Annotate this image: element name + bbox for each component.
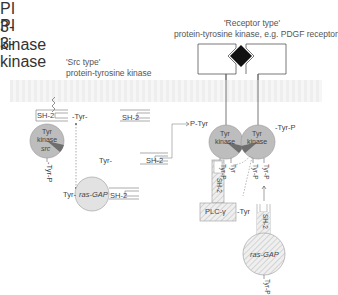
- right-kinase-bottom-left: Tyr-P: [252, 164, 259, 180]
- rasgap-src-sh2-label: SH-2: [110, 191, 127, 200]
- left-kinase-bottom-right: Tyr: [230, 164, 237, 173]
- plc-tyr-label: -Tyr: [237, 208, 250, 216]
- receptor-tyr-p-label: -Tyr-P: [275, 124, 295, 132]
- src-tyr-p-label: -Tyr-P: [46, 162, 54, 182]
- src-kinase-line1: Tyr: [42, 128, 52, 135]
- plc-gamma-label: PLC-γ: [205, 208, 226, 216]
- pi3k-free-tyr-label: Tyr-: [99, 157, 112, 165]
- rasgap-src-name: ras-GAP: [79, 191, 108, 199]
- rasgap-receptor-name: ras-GAP: [250, 251, 279, 259]
- src-kinase-name: src: [41, 145, 50, 152]
- plc-sh2-label: SH-2: [216, 178, 223, 193]
- pi3k-sh2-label: SH-2: [122, 113, 139, 122]
- pdgf-ligand-diamond: [230, 45, 252, 67]
- receptor-ptyr-label: P-Tyr: [190, 120, 208, 128]
- rasgap-src-tyr-label: Tyr-: [63, 191, 76, 199]
- src-kinase-line2: kinase: [37, 136, 57, 143]
- src-sh2-label: SH-2: [37, 112, 54, 120]
- rasgap-receptor-tyr-p: Tyr-P: [264, 279, 271, 295]
- rasgap-receptor-sh2-label: SH-2: [262, 214, 269, 229]
- pi3k-tyr-label: -Tyr-: [72, 113, 87, 121]
- left-kinase-line1: Tyr: [220, 130, 230, 137]
- right-kinase-line1: Tyr: [252, 130, 262, 137]
- right-kinase-bottom-right: Tyr-P: [263, 164, 270, 180]
- left-kinase-line2: kinase: [215, 138, 235, 145]
- pi3k-free-sh2-label: SH-2: [146, 156, 163, 165]
- right-kinase-line2: kinase: [247, 138, 267, 145]
